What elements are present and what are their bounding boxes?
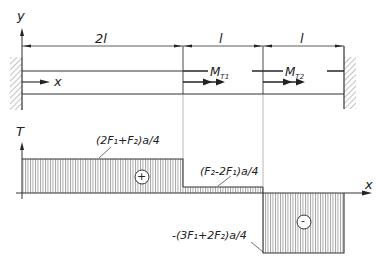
beam-x-axis-label: x [54,75,62,88]
torque-value-segment-1: (2F₁+F₂)a/4 [96,135,160,146]
torque-x-axis-label: x [365,178,373,191]
y-axis [20,28,24,57]
t-axis-label: T [16,125,24,138]
torque-segment-2 [183,187,263,193]
dimension-label-l-2: l [300,32,304,45]
dimension-label-l-1: l [219,32,223,45]
left-fixed-support [10,57,22,110]
moment-label-mt2: MT2 [285,66,304,81]
torque-segment-1 [22,159,183,193]
positive-sign-label: + [137,171,146,182]
moment-label-mt1: MT1 [210,66,229,81]
torque-value-segment-2: (F₂-2F₁)a/4 [200,166,258,177]
torque-diagram [0,0,384,264]
negative-sign-label: - [301,215,305,226]
y-axis-label: y [17,9,25,22]
torque-value-segment-3: -(3F₁+2F₂)a/4 [172,230,247,241]
dimension-label-2l: 2l [95,32,107,45]
right-fixed-support [344,46,356,109]
beam-x-axis [22,80,50,85]
